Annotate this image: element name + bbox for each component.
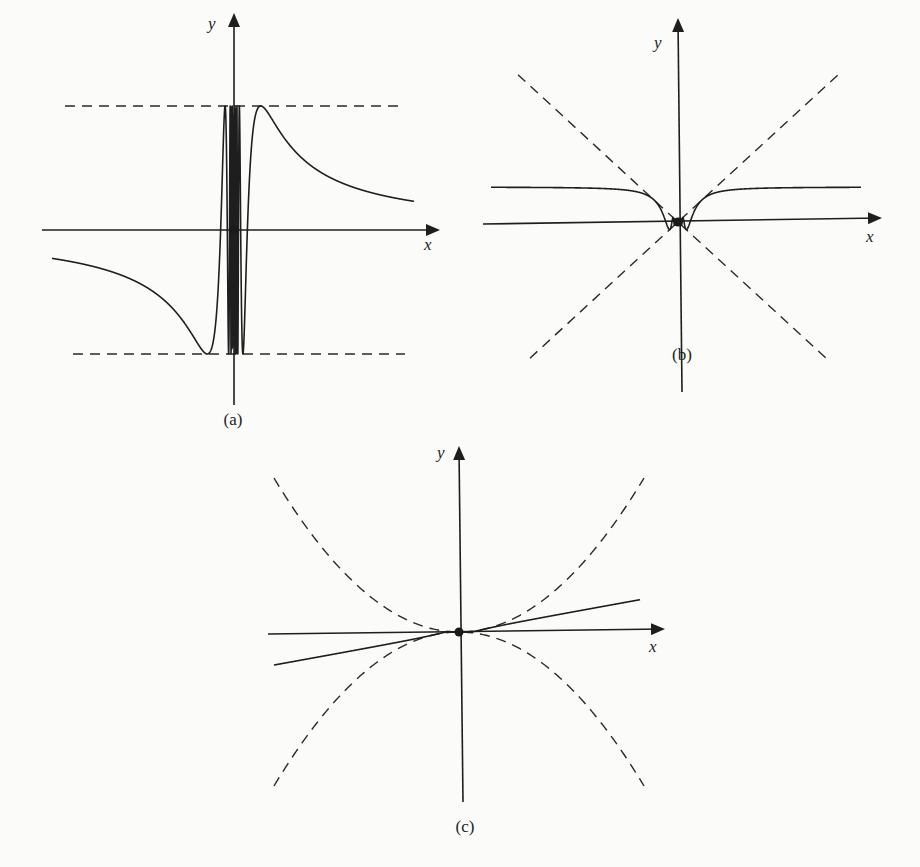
panel-c: x y (c) xyxy=(268,443,663,836)
panel-a: x y (a) xyxy=(42,14,438,429)
figure-canvas: x y (a) x y (b) x y (c) xyxy=(0,0,920,867)
y-axis-label: y xyxy=(652,33,662,52)
panel-caption: (b) xyxy=(672,345,692,364)
y-axis-label: y xyxy=(435,443,445,462)
envelope-line-y-equals-x xyxy=(530,75,838,358)
x-axis-label: x xyxy=(423,235,432,254)
y-axis xyxy=(678,20,682,392)
x-axis-label: x xyxy=(865,227,874,246)
origin-point xyxy=(455,628,464,637)
panel-b: x y (b) xyxy=(483,20,880,392)
x-axis-label: x xyxy=(648,637,657,656)
y-axis-label: y xyxy=(206,14,216,33)
origin-point xyxy=(230,226,239,235)
origin-point xyxy=(674,218,683,227)
y-axis xyxy=(459,448,463,802)
panel-caption: (c) xyxy=(456,817,475,836)
panel-caption: (a) xyxy=(224,410,243,429)
